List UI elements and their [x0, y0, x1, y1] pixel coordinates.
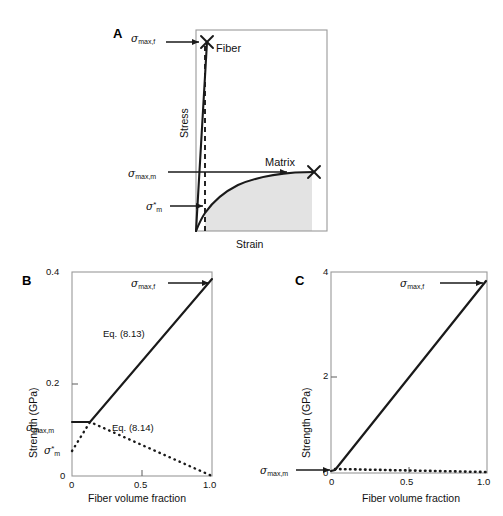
panel-c-eq-813-line: [331, 281, 486, 471]
composite-strength-figure: A Stress Strain σmax,f σmax,m σ*m Fiber …: [0, 0, 503, 516]
panel-b-plot: [0, 258, 252, 516]
panel-b-eq-813-line: [72, 279, 212, 422]
panel-a-plot: [0, 0, 503, 258]
panel-b-eq-814-line: [72, 422, 212, 476]
panel-c: C Strength (GPa) Fiber volume fraction 0…: [252, 258, 503, 516]
panel-a-shaded-region: [205, 172, 312, 231]
panel-c-plot: [252, 258, 503, 516]
panel-c-eq-814-line: [335, 469, 486, 472]
panel-c-frame: [331, 272, 487, 473]
panel-b: B Strength (GPa) Fiber volume fraction 0…: [0, 258, 252, 516]
panel-a: A Stress Strain σmax,f σmax,m σ*m Fiber …: [0, 0, 503, 258]
